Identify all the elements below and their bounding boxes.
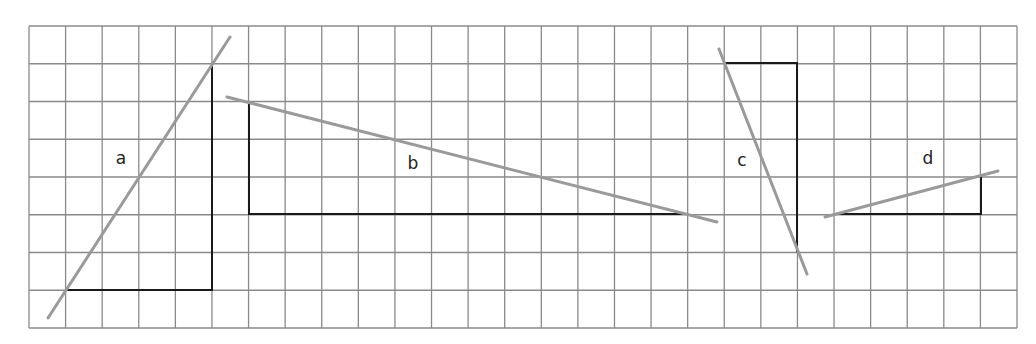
label-b: b (408, 155, 419, 172)
grid-lines (29, 26, 1017, 328)
triangle-b-hypotenuse (227, 97, 717, 222)
label-c: c (737, 152, 746, 169)
triangle-c-hypotenuse (719, 49, 807, 274)
triangle-d-hypotenuse (825, 171, 998, 217)
grid-diagram (0, 0, 1036, 344)
triangle-c (719, 49, 807, 274)
triangle-d (825, 171, 998, 217)
label-a: a (116, 150, 126, 167)
triangle-b (227, 97, 717, 222)
label-d: d (923, 150, 934, 167)
